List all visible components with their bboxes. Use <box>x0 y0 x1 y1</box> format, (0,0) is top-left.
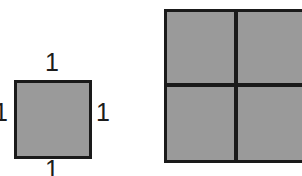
quadrant-bottom-left <box>167 87 234 160</box>
unit-square-label-right: 1 <box>96 100 110 125</box>
unit-square-label-bottom: 1 <box>45 157 59 176</box>
unit-square-label-top: 1 <box>45 50 59 75</box>
subdivided-square <box>164 9 302 163</box>
geometry-diagram: 1 1 1 1 <box>0 0 302 176</box>
unit-square <box>14 80 92 159</box>
quadrant-top-left <box>167 12 234 83</box>
horizontal-divider-line <box>167 83 302 87</box>
quadrant-bottom-right <box>238 87 302 160</box>
quadrant-top-right <box>238 12 302 83</box>
unit-square-label-left: 1 <box>0 100 8 125</box>
